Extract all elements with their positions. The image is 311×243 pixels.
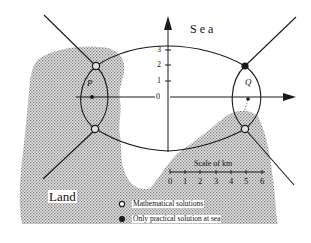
land-label: Land — [48, 190, 77, 203]
scale-title: Scale of km — [194, 160, 232, 168]
solution-q-bottom-hollow — [241, 125, 248, 132]
legend-item-mathematical: Mathematical solutions — [132, 200, 204, 208]
legend-hollow-circle-icon — [119, 201, 124, 206]
point-p-marker — [90, 95, 94, 99]
scale-tick-0: 0 — [168, 177, 172, 186]
y-tick-0: 0 — [155, 93, 161, 101]
y-axis-arrow-icon — [164, 16, 172, 30]
scale-tick-2: 2 — [198, 177, 202, 186]
legend-item-practical: Only practical solution at sea — [132, 215, 221, 223]
scale-tick-6: 6 — [260, 177, 264, 186]
point-q-label: Q — [245, 78, 252, 87]
scale-tick-5: 5 — [244, 177, 248, 186]
y-tick-2: 2 — [157, 61, 161, 69]
y-tick-3: 3 — [157, 46, 161, 54]
point-p-label: P — [87, 79, 93, 88]
sea-label: Sea — [190, 23, 216, 35]
solution-q-top-filled — [241, 62, 248, 69]
solution-p-bottom-hollow — [91, 125, 98, 132]
y-tick-1: 1 — [157, 77, 161, 85]
scale-tick-3: 3 — [214, 177, 218, 186]
x-axis-arrow-icon — [283, 93, 296, 101]
scale-tick-1: 1 — [183, 177, 187, 186]
solution-p-top-hollow — [92, 62, 99, 69]
legend-filled-circle-icon — [119, 216, 125, 222]
scale-tick-4: 4 — [229, 177, 233, 186]
